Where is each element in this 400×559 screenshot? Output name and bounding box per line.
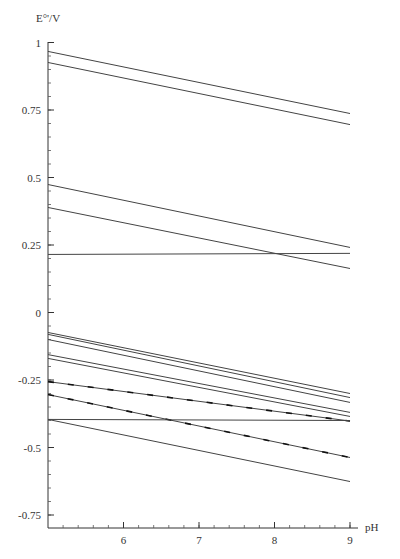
y-tick-label: -0.5 (24, 442, 42, 454)
series-line (48, 62, 350, 124)
y-tick-label: 0 (36, 307, 42, 319)
y-tick-label: -0.75 (18, 509, 41, 521)
x-tick-label: 8 (272, 534, 278, 546)
y-tick-label: 0.75 (22, 104, 42, 116)
y-tick-label: 0.5 (27, 172, 41, 184)
y-tick-label: -0.25 (18, 374, 41, 386)
y-tick-label: 0.25 (22, 239, 42, 251)
plot-lines (48, 51, 350, 481)
x-axis: 6789 (48, 522, 358, 546)
y-axis: 10.750.50.250-0.25-0.5-0.75 (18, 37, 54, 529)
series-line (48, 253, 350, 254)
x-tick-label: 7 (196, 534, 202, 546)
chart: E°'/V 10.750.50.250-0.25-0.5-0.75 6789 p… (0, 0, 400, 559)
x-tick-label: 9 (347, 534, 353, 546)
x-tick-label: 6 (121, 534, 127, 546)
y-axis-label: E°'/V (36, 12, 60, 24)
y-tick-label: 1 (36, 37, 42, 49)
series-line (48, 51, 350, 113)
x-axis-label: pH (365, 521, 379, 533)
series-line (48, 340, 350, 403)
series-line (48, 419, 350, 481)
series-line (48, 419, 350, 420)
